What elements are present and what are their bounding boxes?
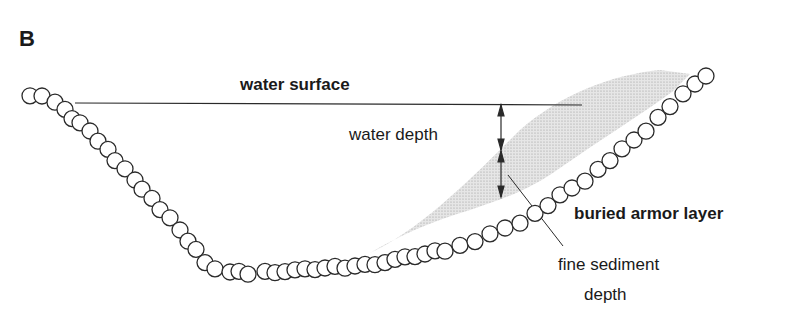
armor-particle (482, 226, 498, 242)
fine-sediment-label-line2: depth (584, 285, 627, 304)
buried-armor-layer-label: buried armor layer (574, 204, 724, 223)
water-surface-label: water surface (239, 75, 350, 94)
panel-label: B (19, 26, 35, 51)
channel-cross-section-diagram: B water surface water depth buried armor… (0, 0, 801, 332)
armor-particle (467, 234, 483, 250)
fine-sediment-label-line1: fine sediment (558, 255, 659, 274)
water-depth-label: water depth (348, 125, 438, 144)
armor-particle (638, 123, 654, 139)
armor-particle (602, 153, 618, 169)
water-depth-arrow (498, 105, 504, 150)
armor-particle (577, 173, 593, 189)
armor-particle (662, 99, 678, 115)
armor-particle (437, 243, 453, 259)
armor-particle (497, 220, 513, 236)
armor-particle (207, 261, 223, 277)
armor-particle (452, 237, 468, 253)
armor-particle (512, 215, 528, 231)
armor-particle (698, 68, 714, 84)
water-surface-line (75, 103, 582, 105)
armor-particle (240, 266, 256, 282)
fine-sediment-region (370, 70, 690, 253)
